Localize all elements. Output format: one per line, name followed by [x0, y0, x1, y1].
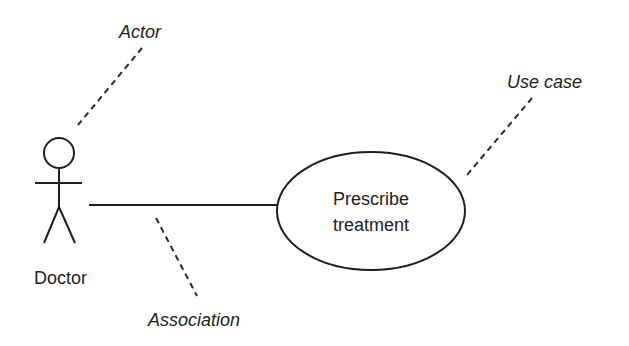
use-case-ellipse — [277, 152, 465, 270]
use-case-name-line2: treatment — [333, 215, 409, 235]
use-case-prescribe-treatment[interactable]: Prescribe treatment — [277, 152, 465, 270]
use-case-name-line1: Prescribe — [333, 189, 409, 209]
actor-annotation-label: Actor — [118, 22, 162, 42]
actor-name: Doctor — [34, 268, 87, 288]
actor-doctor[interactable] — [35, 138, 82, 243]
association-annotation-pointer — [156, 218, 197, 296]
use-case-annotation-pointer — [467, 98, 532, 175]
use-case-annotation-label: Use case — [507, 72, 582, 92]
actor-annotation-pointer — [78, 48, 142, 125]
association-annotation-label: Association — [147, 310, 240, 330]
use-case-diagram: Actor Doctor Association Prescribe treat… — [0, 0, 629, 346]
actor-right-leg — [59, 207, 75, 243]
actor-left-leg — [44, 207, 59, 243]
actor-head — [44, 138, 74, 168]
